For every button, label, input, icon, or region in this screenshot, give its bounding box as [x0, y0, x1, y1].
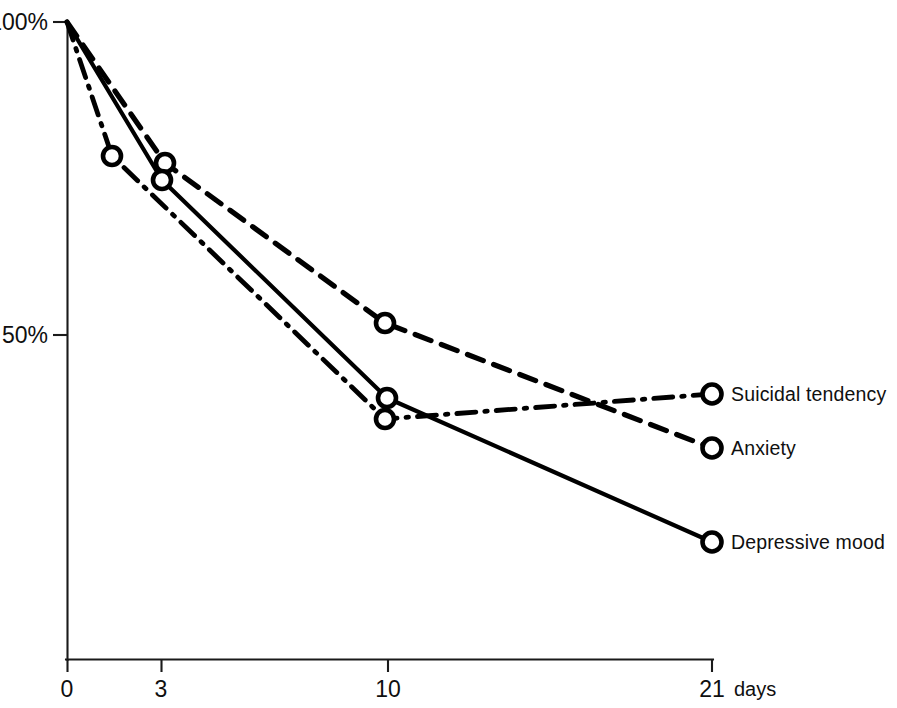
series-line-anxiety [67, 22, 712, 448]
x-axis-label-0: 0 [61, 676, 74, 702]
chart-container: 100% 50% 0 3 10 21 days Suicidal tendenc… [0, 0, 897, 708]
x-axis-label-21: 21 [699, 676, 725, 702]
data-point-depressive-day21 [703, 533, 722, 552]
legend-label-suicidal-tendency: Suicidal tendency [731, 383, 886, 405]
data-point-anxiety-day10 [376, 314, 394, 332]
legend-label-depressive-mood: Depressive mood [731, 531, 885, 553]
series-line-suicidal-tendency [67, 22, 712, 419]
x-axis-label-10: 10 [375, 676, 401, 702]
x-axis-label-3: 3 [155, 676, 168, 702]
data-point-depressive-day3 [153, 171, 171, 189]
series-line-depressive-mood [67, 22, 712, 542]
y-axis-label-100: 100% [0, 9, 48, 35]
data-point-depressive-day10 [378, 389, 396, 407]
x-axis-unit-label: days [734, 678, 776, 700]
legend-label-anxiety: Anxiety [731, 437, 796, 459]
data-point-anxiety-day21 [703, 439, 722, 458]
y-axis-label-50: 50% [2, 322, 48, 348]
data-point-suicidal-day10 [376, 410, 394, 428]
line-chart: 100% 50% 0 3 10 21 days Suicidal tendenc… [0, 0, 897, 708]
data-point-suicidal-day21 [703, 385, 722, 404]
data-point-suicidal-day2 [103, 147, 121, 165]
